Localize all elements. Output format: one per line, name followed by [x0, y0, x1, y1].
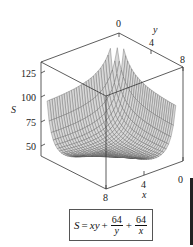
- y-tick-0: 0: [116, 18, 121, 29]
- x-tick-0: 0: [178, 174, 183, 185]
- fraction-1-denominator: y: [115, 226, 119, 236]
- formula-lhs: S: [74, 219, 80, 231]
- y-axis-label: y: [152, 24, 158, 35]
- y-tick-8: 8: [180, 54, 185, 65]
- z-tick-125: 125: [21, 68, 36, 79]
- page-edge-bar: [190, 178, 193, 245]
- z-tick-75: 75: [26, 117, 36, 128]
- formula-plus-2: +: [126, 219, 132, 231]
- formula-box: S = xy + 64 y + 64 x: [69, 209, 153, 241]
- fraction-2-denominator: x: [139, 226, 143, 236]
- x-axis-label: x: [141, 189, 147, 200]
- formula-plus-1: +: [102, 219, 108, 231]
- z-axis-label: S: [11, 104, 16, 115]
- surface-mesh: [47, 48, 176, 160]
- fraction-1-numerator: 64: [111, 215, 123, 226]
- fraction-2-numerator: 64: [135, 215, 147, 226]
- x-tick-8: 8: [103, 192, 108, 203]
- z-tick-100: 100: [21, 92, 36, 103]
- y-tick-4: 4: [149, 37, 154, 48]
- formula-fraction-1: 64 y: [111, 215, 123, 236]
- z-tick-50: 50: [26, 141, 36, 152]
- formula-term-xy: xy: [90, 219, 100, 231]
- formula-equals: =: [82, 219, 88, 231]
- formula-fraction-2: 64 x: [135, 215, 147, 236]
- z-axis: [41, 71, 45, 146]
